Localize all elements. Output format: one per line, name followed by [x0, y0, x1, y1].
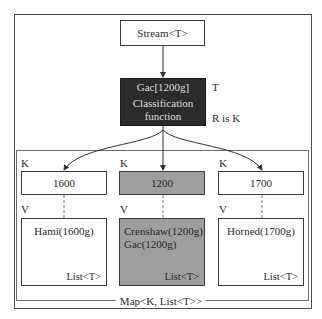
- value-box-1700: Horned(1700g) List<T>: [218, 218, 304, 286]
- list-item: Hami(1600g): [26, 225, 102, 238]
- key-label: K: [120, 157, 128, 169]
- result-type-label: R is K: [212, 112, 240, 124]
- value-label: V: [120, 203, 128, 215]
- key-label: K: [219, 157, 227, 169]
- function-to-1600-arrow: [64, 130, 163, 170]
- classification-function-box: Gac[1200g] Classification function: [120, 78, 206, 126]
- value-box-1600: Hami(1600g) List<T>: [21, 218, 107, 286]
- key-label: K: [21, 157, 29, 169]
- function-title-line2: function: [145, 110, 182, 123]
- value-label: V: [21, 203, 29, 215]
- list-type-label: List<T>: [263, 271, 298, 282]
- list-item: Horned(1700g): [223, 225, 299, 238]
- stream-label: Stream<T>: [137, 27, 187, 39]
- list-type-label: List<T>: [164, 271, 199, 282]
- list-item: Gac(1200g): [124, 238, 200, 251]
- value-box-1200: Crenshaw(1200g) Gac(1200g) List<T>: [119, 218, 205, 286]
- map-type-label: Map<K, List<T>>: [0, 295, 322, 307]
- key-value: 1600: [53, 177, 75, 189]
- list-type-label: List<T>: [66, 271, 101, 282]
- map-type-text: Map<K, List<T>>: [116, 295, 206, 307]
- stream-box: Stream<T>: [120, 20, 205, 46]
- input-type-label: T: [212, 81, 219, 93]
- function-input-sample: Gac[1200g]: [137, 81, 190, 94]
- key-value: 1200: [151, 177, 173, 189]
- list-item: Crenshaw(1200g): [124, 225, 200, 238]
- function-to-1700-arrow: [163, 130, 262, 170]
- function-title-line1: Classification: [133, 97, 194, 110]
- key-box-1200: 1200: [119, 171, 205, 195]
- key-value: 1700: [250, 177, 272, 189]
- key-box-1600: 1600: [21, 171, 107, 195]
- value-label: V: [219, 203, 227, 215]
- key-box-1700: 1700: [218, 171, 304, 195]
